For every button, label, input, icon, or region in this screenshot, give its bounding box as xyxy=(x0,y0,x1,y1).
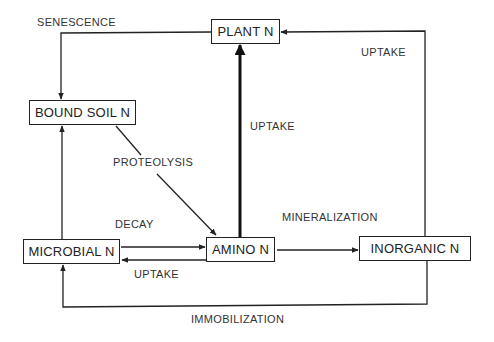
node-plant-n: PLANT N xyxy=(211,19,280,44)
node-inorganic-n: INORGANIC N xyxy=(359,236,471,261)
label-proteolysis: PROTEOLYSIS xyxy=(113,156,193,168)
senescence-arrow xyxy=(61,32,211,99)
node-amino-n-label: AMINO N xyxy=(212,242,269,257)
node-microbial-n: MICROBIAL N xyxy=(23,239,120,264)
node-amino-n: AMINO N xyxy=(206,237,275,262)
label-senescence: SENESCENCE xyxy=(37,16,116,28)
proteolysis-line-upper xyxy=(116,126,141,155)
label-uptake-amino-microbial: UPTAKE xyxy=(134,268,179,280)
label-decay: DECAY xyxy=(115,218,154,230)
node-inorganic-n-label: INORGANIC N xyxy=(371,241,460,256)
label-immobilization: IMMOBILIZATION xyxy=(191,313,284,325)
uptake-inorganic-to-plant-arrow xyxy=(281,31,425,236)
node-plant-n-label: PLANT N xyxy=(217,24,273,39)
immobilization-arrow xyxy=(63,261,427,307)
label-mineralization: MINERALIZATION xyxy=(282,211,378,223)
proteolysis-arrow xyxy=(157,174,216,235)
node-bound-soil-n-label: BOUND SOIL N xyxy=(35,105,130,120)
label-uptake-amino-plant: UPTAKE xyxy=(250,120,295,132)
diagram-connectors xyxy=(0,0,494,342)
node-bound-soil-n: BOUND SOIL N xyxy=(29,100,136,125)
node-microbial-n-label: MICROBIAL N xyxy=(28,244,114,259)
label-uptake-inorganic-plant: UPTAKE xyxy=(361,46,406,58)
